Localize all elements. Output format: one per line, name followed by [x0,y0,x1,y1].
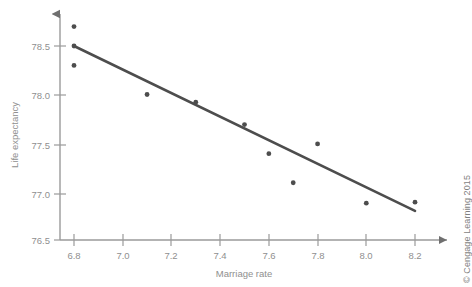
y-tick-label-76-5: 76.5 [32,235,51,246]
data-point [72,63,77,68]
x-tick-label-7-8: 7.8 [311,250,324,261]
data-point [145,92,150,97]
x-tick-label-6-8: 6.8 [67,250,80,261]
x-tick-label-7-4: 7.4 [213,250,226,261]
data-point [291,180,296,185]
x-tick-label-7-6: 7.6 [262,250,275,261]
data-point [72,24,77,29]
data-point [315,142,320,147]
data-point [266,151,271,156]
x-axis: 6.8 7.0 7.2 7.4 7.6 7.8 8.0 8.2 Marriage… [60,234,447,279]
data-point [193,100,198,105]
copyright-credit: © Cengage Learning 2015 [449,150,467,285]
data-point [72,44,77,49]
x-axis-tick-labels: 6.8 7.0 7.2 7.4 7.6 7.8 8.0 8.2 [67,250,421,261]
trend-line-segment [74,46,415,211]
x-tick-label-8-0: 8.0 [359,250,372,261]
y-axis-title: Life expectancy [9,102,20,168]
data-point [364,201,369,206]
copyright-text: © Cengage Learning 2015 [462,175,472,283]
x-tick-label-7-0: 7.0 [116,250,129,261]
data-points [72,24,418,205]
data-point [413,200,418,205]
x-axis-title: Marriage rate [216,268,273,279]
trend-line [74,46,415,211]
x-tick-label-8-2: 8.2 [408,250,421,261]
data-point [242,122,247,127]
x-tick-label-7-2: 7.2 [164,250,177,261]
y-axis-tick-labels: 78.5 78.0 77.5 77.0 76.5 [32,41,51,246]
y-tick-label-78-0: 78.0 [32,90,51,101]
y-tick-label-78-5: 78.5 [32,41,51,52]
y-axis: 78.5 78.0 77.5 77.0 76.5 Life expectancy [9,14,66,246]
y-tick-label-77-5: 77.5 [32,140,51,151]
y-tick-label-77-0: 77.0 [32,189,51,200]
